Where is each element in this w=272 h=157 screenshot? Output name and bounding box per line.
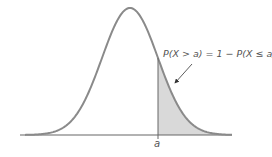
normal-distribution-chart	[0, 0, 272, 157]
normal-curve	[25, 8, 232, 135]
annotation-arrow	[175, 64, 192, 83]
shaded-tail-area	[158, 58, 232, 135]
probability-annotation: P(X > a) = 1 − P(X ≤ a)	[163, 48, 272, 59]
x-tick-label-a: a	[154, 138, 160, 149]
